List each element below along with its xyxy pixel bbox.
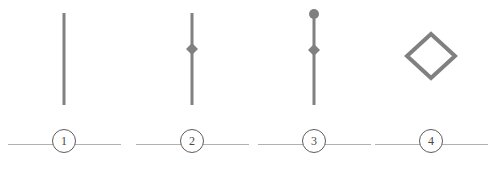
caption-rule-right xyxy=(75,144,121,145)
caption-4: 4 xyxy=(369,120,494,170)
filled-diamond-icon xyxy=(186,43,198,55)
figure-sheet: 1 2 3 xyxy=(0,0,501,170)
figure-number-badge-1: 1 xyxy=(52,129,76,153)
open-diamond-icon xyxy=(407,34,455,78)
figure-panel-3: 3 xyxy=(252,0,377,170)
figure-panel-2: 2 xyxy=(130,0,255,170)
figure-panel-1: 1 xyxy=(2,0,127,170)
caption-rule-right xyxy=(325,144,371,145)
figure-panel-4: 4 xyxy=(369,0,494,170)
figure-number-badge-2: 2 xyxy=(180,129,204,153)
figure-number-badge-3: 3 xyxy=(302,129,326,153)
caption-1: 1 xyxy=(2,120,127,170)
caption-rule-left xyxy=(8,144,56,145)
glyph-line-with-circle-and-diamond xyxy=(252,0,377,120)
glyph-line-with-center-diamond xyxy=(130,0,255,120)
filled-circle-icon xyxy=(309,9,319,19)
glyph-open-diamond xyxy=(369,0,494,120)
caption-3: 3 xyxy=(252,120,377,170)
caption-rule-left xyxy=(375,144,423,145)
caption-rule-left xyxy=(258,144,306,145)
filled-diamond-icon xyxy=(308,44,320,56)
glyph-plain-vertical-line xyxy=(2,0,127,120)
caption-2: 2 xyxy=(130,120,255,170)
figure-number-badge-4: 4 xyxy=(419,129,443,153)
caption-rule-left xyxy=(136,144,184,145)
caption-rule-right xyxy=(203,144,249,145)
caption-rule-right xyxy=(442,144,488,145)
